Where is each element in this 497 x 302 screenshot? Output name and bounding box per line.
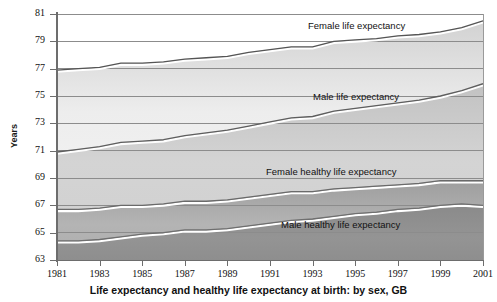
x-axis-tick xyxy=(398,260,399,266)
y-axis-tick xyxy=(50,205,57,206)
y-axis-title: Years xyxy=(9,106,19,166)
x-axis-tick-label: 1993 xyxy=(291,268,335,279)
x-axis-tick xyxy=(57,260,58,266)
x-axis-tick-label: 1997 xyxy=(376,268,420,279)
x-axis-tick xyxy=(313,260,314,266)
y-axis-tick-label: 71 xyxy=(5,144,45,155)
y-axis-tick-label: 81 xyxy=(5,7,45,18)
x-axis-tick-label: 1981 xyxy=(35,268,79,279)
plot-area xyxy=(57,14,483,260)
x-axis-tick xyxy=(440,260,441,266)
y-axis-tick xyxy=(50,178,57,179)
y-axis-tick xyxy=(50,260,57,261)
x-axis-tick xyxy=(185,260,186,266)
chart-canvas xyxy=(57,14,483,260)
series-label-male-life-expectancy: Male life expectancy xyxy=(313,91,399,102)
x-axis-tick-label: 1991 xyxy=(248,268,292,279)
y-axis-tick-label: 63 xyxy=(5,253,45,264)
x-axis-tick-label: 2001 xyxy=(461,268,497,279)
chart-title: Life expectancy and healthy life expecta… xyxy=(0,284,497,296)
y-axis-tick xyxy=(50,151,57,152)
y-axis-line xyxy=(56,12,58,262)
x-axis-tick xyxy=(270,260,271,266)
x-axis-tick xyxy=(355,260,356,266)
series-label-female-life-expectancy: Female life expectancy xyxy=(308,20,405,31)
plot-right-border xyxy=(483,14,484,261)
chart-root: Years xyxy=(0,0,497,302)
x-axis-tick-label: 1985 xyxy=(120,268,164,279)
y-axis-tick xyxy=(50,96,57,97)
y-axis-tick-label: 77 xyxy=(5,62,45,73)
y-axis-tick-label: 67 xyxy=(5,198,45,209)
x-axis-tick xyxy=(483,260,484,266)
y-axis-tick-label: 69 xyxy=(5,171,45,182)
y-axis-tick-label: 73 xyxy=(5,116,45,127)
series-label-male-healthy-life-expectancy: Male healthy life expectancy xyxy=(281,219,400,230)
x-axis-tick-label: 1995 xyxy=(333,268,377,279)
y-axis-tick-label: 65 xyxy=(5,226,45,237)
y-axis-tick xyxy=(50,123,57,124)
y-axis-tick-label: 75 xyxy=(5,89,45,100)
series-label-female-healthy-life-expectancy: Female healthy life expectancy xyxy=(266,166,396,177)
x-axis-tick-label: 1989 xyxy=(205,268,249,279)
x-axis-tick xyxy=(142,260,143,266)
x-axis-tick-label: 1987 xyxy=(163,268,207,279)
y-axis-tick xyxy=(50,14,57,15)
y-axis-tick xyxy=(50,69,57,70)
x-axis-tick-label: 1999 xyxy=(418,268,462,279)
y-axis-tick-label: 79 xyxy=(5,34,45,45)
x-axis-tick-label: 1983 xyxy=(78,268,122,279)
x-axis-tick xyxy=(100,260,101,266)
y-axis-tick xyxy=(50,233,57,234)
y-axis-tick xyxy=(50,41,57,42)
x-axis-tick xyxy=(227,260,228,266)
